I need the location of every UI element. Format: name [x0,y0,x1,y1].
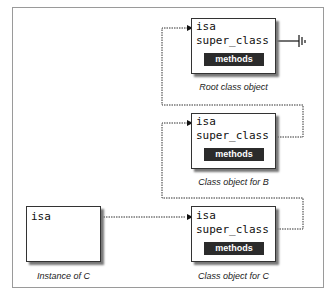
class-c-caption: Class object for C [191,271,276,281]
isa-field: isa [196,116,216,128]
isa-field: isa [196,21,216,33]
methods-block: methods [204,242,264,255]
root-class-caption: Root class object [191,82,276,92]
class-c-box: isa super_class methods [191,206,276,262]
isa-field: isa [31,211,51,223]
class-b-caption: Class object for B [191,177,276,187]
super-class-field: super_class [196,130,269,142]
super-class-field: super_class [196,35,269,47]
instance-box: isa [26,206,101,262]
instance-caption: Instance of C [26,271,101,281]
super-class-field: super_class [196,224,269,236]
class-b-box: isa super_class methods [191,113,276,169]
methods-block: methods [204,53,264,66]
isa-field: isa [196,210,216,222]
root-class-box: isa super_class methods [191,18,276,74]
methods-block: methods [204,148,264,161]
